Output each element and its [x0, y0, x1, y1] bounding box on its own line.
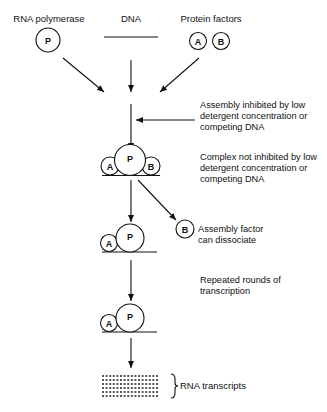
brace-icon: [171, 374, 178, 398]
transcription-assembly-diagram: RNA polymerase P DNA Protein factors A B…: [0, 0, 327, 412]
complex-ap: A P: [101, 224, 158, 252]
assembly-note-line-3: competing DNA: [200, 122, 265, 132]
rna-polymerase-label: RNA polymerase: [13, 13, 84, 24]
dissociation-arrow-icon: [138, 180, 176, 220]
dissociation-note-line-1: Assembly factor: [198, 224, 263, 234]
factors-arrow-icon: [160, 58, 199, 92]
complex-p-symbol: P: [127, 154, 133, 164]
transcription-note-line-1: Repeated rounds of: [200, 275, 281, 285]
complex-ap-repeated: A P: [101, 304, 158, 332]
complex-note-line-1: Complex not inhibited by low: [200, 152, 317, 162]
complex-note-line-2: detergent concentration or: [200, 163, 307, 173]
complex-ap-p-symbol: P: [127, 232, 133, 242]
factor-a-symbol: A: [195, 37, 202, 47]
complex-ap-a-symbol: A: [106, 239, 113, 249]
complex-ap2-a-symbol: A: [106, 319, 113, 329]
assembly-note-line-1: Assembly inhibited by low: [200, 100, 306, 110]
complex-note-line-3: competing DNA: [200, 174, 265, 184]
rna-polymerase-input: RNA polymerase P: [13, 13, 84, 52]
factor-b-symbol: B: [218, 37, 225, 47]
protein-factors-label: Protein factors: [180, 13, 241, 24]
dissociated-b-symbol: B: [182, 225, 189, 235]
dna-input: DNA: [104, 13, 158, 37]
dissociation-note-line-2: can dissociate: [198, 235, 256, 245]
complex-a-symbol: A: [107, 162, 114, 172]
assembly-note-line-2: detergent concentration or: [200, 111, 307, 121]
polymerase-arrow-icon: [63, 58, 104, 92]
protein-factors-input: Protein factors A B: [180, 13, 241, 50]
rna-transcripts-label: RNA transcripts: [180, 380, 246, 391]
complex-b-symbol: B: [148, 162, 155, 172]
dna-label: DNA: [121, 13, 142, 24]
polymerase-symbol: P: [45, 36, 51, 46]
rna-transcripts-icon: [102, 376, 158, 396]
complex-ap2-p-symbol: P: [127, 312, 133, 322]
transcription-note-line-2: transcription: [200, 286, 250, 296]
complex-apb: A P B: [101, 145, 160, 176]
